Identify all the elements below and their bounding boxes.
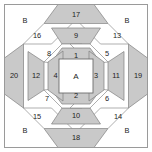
label-piece-6: 6 xyxy=(105,94,109,103)
label-piece-19: 19 xyxy=(134,71,142,80)
label-piece-11: 11 xyxy=(112,71,120,80)
label-piece-2: 2 xyxy=(74,91,78,100)
label-piece-20: 20 xyxy=(10,71,18,80)
label-piece-15: 15 xyxy=(33,112,41,121)
label-piece-8: 8 xyxy=(47,49,51,58)
label-piece-5: 5 xyxy=(105,49,109,58)
label-piece-16: 16 xyxy=(33,31,41,40)
label-piece-10: 10 xyxy=(72,111,80,120)
label-piece-17: 17 xyxy=(72,10,80,19)
label-corner-bottom-left: B xyxy=(23,126,28,135)
label-piece-1: 1 xyxy=(74,51,78,60)
label-piece-3: 3 xyxy=(94,71,98,80)
label-corner-top-right: B xyxy=(125,16,130,25)
label-piece-12: 12 xyxy=(32,71,40,80)
label-piece-14: 14 xyxy=(114,112,122,121)
pineapple-block-diagram: A B B B B 1 2 3 4 5 6 7 8 9 10 11 12 13 … xyxy=(0,0,152,152)
label-corner-bottom-right: B xyxy=(125,126,130,135)
label-center-a: A xyxy=(73,72,79,81)
label-piece-9: 9 xyxy=(74,31,78,40)
label-piece-13: 13 xyxy=(113,31,121,40)
label-corner-top-left: B xyxy=(23,16,28,25)
label-piece-7: 7 xyxy=(45,94,49,103)
label-piece-4: 4 xyxy=(53,71,57,80)
label-piece-18: 18 xyxy=(72,133,80,142)
